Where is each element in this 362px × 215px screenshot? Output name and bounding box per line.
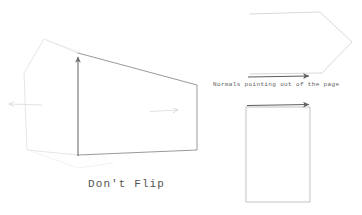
normals-caption-label: Normals pointing out of the page [213, 81, 339, 88]
rectangle-normal-arrow [247, 105, 309, 106]
dont-flip-label: Don't Flip [88, 178, 165, 190]
pentagon-normal-arrow [248, 76, 309, 77]
box-left-face [24, 39, 78, 155]
diagram-canvas: Don't Flip Normals pointing out of the p… [0, 0, 362, 215]
right-normal-arrow [150, 110, 178, 112]
rectangle-outline [246, 107, 310, 202]
box-back-ridge [44, 39, 79, 52]
box-bottom-edge-hint [28, 150, 113, 168]
pentagon-outline [250, 12, 352, 74]
left-normal-arrow [9, 104, 42, 105]
box-front-face [78, 53, 197, 155]
diagram-drawing [0, 0, 362, 215]
